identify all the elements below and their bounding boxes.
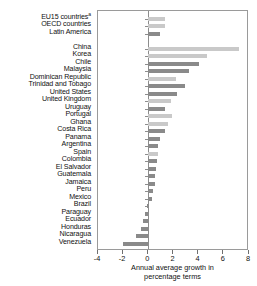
bar bbox=[148, 47, 239, 51]
bar bbox=[148, 84, 184, 88]
bar bbox=[145, 212, 149, 216]
bar bbox=[141, 227, 149, 231]
bar bbox=[148, 77, 176, 81]
x-axis-tick bbox=[172, 250, 173, 254]
bar bbox=[148, 174, 154, 178]
x-axis-tick bbox=[97, 250, 98, 254]
bar bbox=[148, 107, 164, 111]
bar bbox=[147, 204, 148, 208]
bar bbox=[123, 242, 148, 246]
x-axis-tick-label: 2 bbox=[170, 254, 174, 263]
bar bbox=[148, 99, 171, 103]
bar bbox=[148, 137, 159, 141]
bar bbox=[148, 54, 207, 58]
bar bbox=[136, 234, 149, 238]
bar bbox=[148, 152, 158, 156]
category-label-text: Venezuela bbox=[59, 238, 91, 246]
bar bbox=[148, 17, 164, 21]
x-axis-tick-label: 4 bbox=[196, 254, 200, 263]
bar bbox=[148, 122, 168, 126]
x-axis-tick-label: 6 bbox=[221, 254, 225, 263]
x-axis-tick bbox=[147, 250, 148, 254]
bar bbox=[148, 144, 158, 148]
x-axis-tick-label: -2 bbox=[119, 254, 126, 263]
x-axis-label-line1: Annual average growth in bbox=[131, 263, 214, 272]
bar-chart-figure: EU15 countriesaOECD countriesLatin Ameri… bbox=[0, 0, 257, 286]
category-label-column: EU15 countriesaOECD countriesLatin Ameri… bbox=[0, 10, 94, 250]
bar bbox=[148, 24, 164, 28]
bar bbox=[143, 219, 148, 223]
bar bbox=[148, 69, 188, 73]
footnote-marker: a bbox=[88, 11, 91, 17]
bar bbox=[148, 114, 172, 118]
bar bbox=[148, 92, 177, 96]
x-axis-label-line2: percentage terms bbox=[97, 272, 248, 281]
x-axis-tick-label: 8 bbox=[246, 254, 250, 263]
plot-area bbox=[97, 10, 248, 250]
bar bbox=[148, 62, 198, 66]
x-axis-label: Annual average growth in percentage term… bbox=[97, 263, 248, 281]
plot-inner bbox=[98, 11, 247, 249]
bar bbox=[148, 129, 164, 133]
category-label: Venezuela bbox=[0, 239, 91, 247]
x-axis-tick bbox=[222, 250, 223, 254]
x-axis-tick-label: 0 bbox=[145, 254, 149, 263]
x-axis-tick bbox=[248, 250, 249, 254]
bar bbox=[148, 182, 154, 186]
x-axis-tick bbox=[197, 250, 198, 254]
category-label-text: Latin America bbox=[49, 28, 91, 36]
x-axis-tick-label: -4 bbox=[94, 254, 101, 263]
category-label: Latin America bbox=[0, 29, 91, 37]
bar bbox=[148, 167, 156, 171]
bar bbox=[148, 159, 157, 163]
bar bbox=[148, 189, 153, 193]
bar bbox=[148, 32, 159, 36]
x-axis-tick bbox=[122, 250, 123, 254]
bar bbox=[148, 197, 152, 201]
